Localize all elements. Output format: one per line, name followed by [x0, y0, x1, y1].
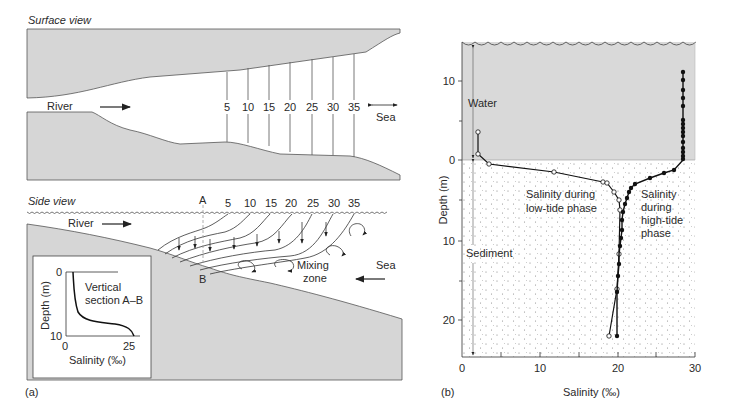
xtick-30: 30: [689, 362, 701, 374]
upper-bank: [27, 29, 400, 98]
inset-title-line1: Vertical: [85, 281, 121, 293]
side-view-title: Side view: [28, 195, 76, 207]
water-label: Water: [468, 97, 497, 109]
inset-ytick-10: 10: [50, 330, 62, 342]
surface-isohaline-15: 15: [263, 101, 275, 113]
panel-a-label: (a): [25, 386, 38, 398]
inset-xtick-25: 25: [123, 340, 135, 352]
side-sea-label: Sea: [376, 259, 396, 271]
figure-canvas: Surface view 5 10 15 20 25 30 35 River S…: [0, 0, 730, 415]
water-surface-waves: [27, 212, 387, 214]
ytick-20: 20: [443, 314, 455, 326]
surface-sea-label: Sea: [376, 111, 396, 123]
low-tide-label-line2: low-tide phase: [526, 202, 597, 214]
inset-ylabel: Depth (m): [39, 281, 51, 330]
panel-b-xlabel: Salinity (‰): [563, 386, 620, 398]
surface-isohaline-10: 10: [242, 101, 254, 113]
surface-isohaline-35: 35: [348, 101, 360, 113]
xtick-10: 10: [534, 362, 546, 374]
side-isohaline-15: 15: [265, 197, 277, 209]
inset-ytick-0: 0: [56, 266, 62, 278]
side-isohaline-10: 10: [244, 197, 256, 209]
xtick-20: 20: [612, 362, 624, 374]
high-tide-label-line1: Salinity: [641, 188, 677, 200]
side-isohaline-25: 25: [307, 197, 319, 209]
inset-vertical-section: 0 10 0 25 Vertical section A–B Salinity …: [33, 256, 151, 378]
side-isohaline-35: 35: [348, 197, 360, 209]
inset-xlabel: Salinity (‰): [69, 354, 126, 366]
water-region: [462, 42, 695, 160]
high-tide-label-line2: during: [641, 201, 672, 213]
inset-title-line2: section A–B: [85, 294, 143, 306]
sediment-label: Sediment: [466, 247, 512, 259]
side-view: Side view: [25, 194, 402, 398]
surface-isohaline-5: 5: [224, 101, 230, 113]
surface-isohaline-30: 30: [327, 101, 339, 113]
xtick-0: 0: [459, 362, 465, 374]
side-isohaline-5: 5: [225, 197, 231, 209]
panel-b-ylabel: Depth (m): [437, 176, 449, 225]
lower-bank: [27, 112, 400, 180]
surface-isohaline-25: 25: [306, 101, 318, 113]
high-tide-label-line3: high-tide: [641, 214, 683, 226]
surface-isohaline-20: 20: [284, 101, 296, 113]
side-isohaline-30: 30: [328, 197, 340, 209]
panel-b-chart: 10 0 10 20 0 10 20 30 Depth (m) Salinity…: [437, 42, 701, 398]
ytick-water-10: 10: [443, 75, 455, 87]
section-label-b: B: [199, 273, 206, 285]
ytick-0: 0: [449, 154, 455, 166]
side-river-label: River: [68, 217, 94, 229]
inset-xtick-0: 0: [62, 340, 68, 352]
side-isohaline-20: 20: [285, 197, 297, 209]
high-tide-label-line4: phase: [641, 227, 671, 239]
section-label-a: A: [199, 194, 207, 206]
surface-view: Surface view 5 10 15 20 25 30 35 River S…: [27, 14, 400, 180]
surface-river-label: River: [47, 100, 73, 112]
low-tide-label-line1: Salinity during: [526, 188, 595, 200]
zone-label: zone: [303, 272, 327, 284]
panel-b-label: (b): [441, 386, 454, 398]
surface-view-title: Surface view: [28, 14, 92, 26]
ytick-sediment-10: 10: [443, 235, 455, 247]
mixing-label: Mixing: [297, 259, 329, 271]
